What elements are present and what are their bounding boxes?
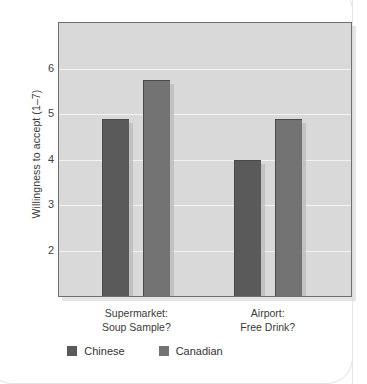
bar-canadian-group-2[interactable] (275, 119, 302, 296)
legend-swatch-icon (67, 346, 77, 356)
legend-item-canadian[interactable]: Canadian (159, 345, 223, 357)
legend-swatch-icon (159, 346, 169, 356)
y-tick-label: 5 (30, 107, 54, 119)
category-label-line: Airport: (188, 306, 348, 320)
gridline (59, 114, 351, 115)
y-tick-label: 6 (30, 62, 54, 74)
category-label: Airport:Free Drink? (188, 306, 348, 334)
chart-legend: ChineseCanadian (0, 345, 290, 357)
bar-chinese-group-1[interactable] (102, 119, 129, 296)
bar-chinese-group-2[interactable] (234, 160, 261, 297)
legend-label: Chinese (84, 345, 124, 357)
y-tick-label: 3 (30, 198, 54, 210)
plot-panel (58, 22, 352, 297)
legend-item-chinese[interactable]: Chinese (67, 345, 124, 357)
y-tick-label: 2 (30, 244, 54, 256)
y-tick-label: 4 (30, 153, 54, 165)
gridline (59, 69, 351, 70)
legend-label: Canadian (176, 345, 223, 357)
category-label-line: Free Drink? (188, 320, 348, 334)
bar-canadian-group-1[interactable] (143, 80, 170, 296)
